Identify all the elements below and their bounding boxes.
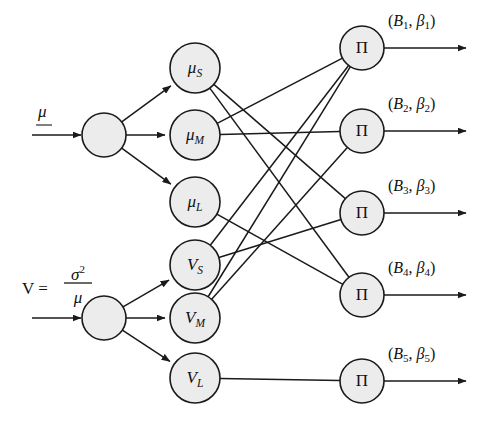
node-label-pi-2: Π [356, 121, 368, 140]
input-label-v-lhs: V = [22, 279, 48, 298]
edge-v-m-to-pi-1 [208, 67, 350, 297]
node-label-pi-5: Π [356, 371, 368, 390]
hidden-to-output-edges [208, 58, 350, 380]
input-label-v-denominator: μ [73, 288, 83, 307]
edge-v-s-to-pi-1 [210, 65, 348, 245]
hidden-nodes: μSμMμLVSVMVL [170, 43, 220, 403]
output-label-pi-3: (B3, β3) [388, 177, 435, 196]
edge-input-v-to-v-l [122, 330, 170, 361]
node-label-pi-3: Π [356, 203, 368, 222]
input-to-hidden-edges [122, 86, 171, 362]
network-diagram: μSμMμLVSVMVL ΠΠΠΠΠ μV =σ2μ (B1, β1)(B2, … [0, 0, 480, 445]
output-label-pi-2: (B2, β2) [388, 95, 435, 114]
edge-input-mu-to-mu-l [122, 148, 171, 184]
node-label-pi-1: Π [356, 38, 368, 57]
input-label-mu: μ [37, 102, 47, 121]
output-label-pi-1: (B1, β1) [388, 12, 435, 31]
edge-input-mu-to-mu-s [122, 86, 171, 122]
node-input-mu[interactable] [82, 113, 126, 157]
node-input-v[interactable] [82, 296, 126, 340]
output-label-pi-5: (B5, β5) [388, 345, 435, 364]
output-labels: (B1, β1)(B2, β2)(B3, β3)(B4, β4)(B5, β5) [388, 12, 435, 364]
edge-mu-m-to-pi-2 [220, 132, 340, 135]
output-nodes: ΠΠΠΠΠ [340, 26, 384, 403]
node-label-pi-4: Π [356, 285, 368, 304]
network-diagram-svg: μSμMμLVSVMVL ΠΠΠΠΠ μV =σ2μ (B1, β1)(B2, … [0, 0, 480, 445]
input-nodes [82, 113, 126, 340]
edge-input-v-to-v-s [123, 280, 169, 307]
output-label-pi-4: (B4, β4) [388, 259, 435, 278]
edge-mu-m-to-pi-1 [217, 58, 342, 123]
input-label-v-numerator: σ2 [71, 263, 85, 284]
edge-v-l-to-pi-5 [220, 378, 340, 380]
